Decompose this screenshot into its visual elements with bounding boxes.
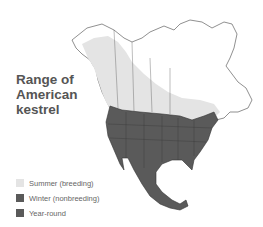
summer-swatch-icon — [16, 179, 24, 187]
year-round-swatch-icon — [16, 209, 24, 217]
legend-label: Year-round — [29, 209, 66, 218]
legend-label: Winter (nonbreeding) — [29, 194, 99, 203]
legend: Summer (breeding) Winter (nonbreeding) Y… — [16, 176, 99, 221]
legend-item-year-round: Year-round — [16, 206, 99, 220]
winter-swatch-icon — [16, 194, 24, 202]
legend-item-summer: Summer (breeding) — [16, 176, 99, 190]
legend-item-winter: Winter (nonbreeding) — [16, 191, 99, 205]
legend-label: Summer (breeding) — [29, 179, 94, 188]
